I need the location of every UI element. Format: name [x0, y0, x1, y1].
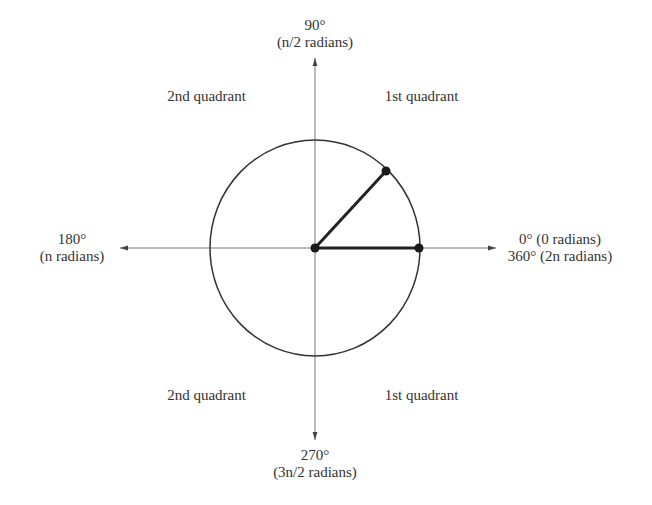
quadrant-label-upper-left: 2nd quadrant — [150, 88, 263, 105]
terminal-angle-point — [382, 167, 391, 176]
label-90-degrees: 90° (n/2 radians) — [255, 17, 375, 51]
label-270-deg: 270° — [255, 447, 375, 464]
label-180-rad: (n radians) — [22, 248, 122, 265]
quadrant-label-upper-right: 1st quadrant — [366, 88, 477, 105]
center-point — [311, 244, 320, 253]
label-180-degrees: 180° (n radians) — [22, 231, 122, 265]
quadrant-upper-right-text: 1st quadrant — [366, 88, 477, 105]
label-90-rad: (n/2 radians) — [255, 34, 375, 51]
label-270-degrees: 270° (3n/2 radians) — [255, 447, 375, 481]
label-90-deg: 90° — [255, 17, 375, 34]
label-0-360-degrees: 0° (0 radians) 360° (2n radians) — [494, 231, 626, 265]
label-270-rad: (3n/2 radians) — [255, 464, 375, 481]
quadrant-label-lower-left: 2nd quadrant — [150, 387, 263, 404]
quadrant-upper-left-text: 2nd quadrant — [150, 88, 263, 105]
radius-terminal-side — [315, 171, 386, 248]
quadrant-label-lower-right: 1st quadrant — [366, 387, 477, 404]
label-360-deg: 360° (2n radians) — [494, 248, 626, 265]
label-180-deg: 180° — [22, 231, 122, 248]
label-0-deg: 0° (0 radians) — [494, 231, 626, 248]
quadrant-lower-right-text: 1st quadrant — [366, 387, 477, 404]
quadrant-lower-left-text: 2nd quadrant — [150, 387, 263, 404]
zero-angle-point — [415, 244, 424, 253]
